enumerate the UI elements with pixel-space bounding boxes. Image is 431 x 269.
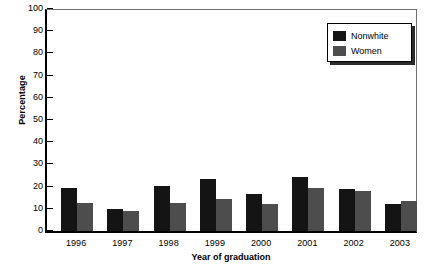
- y-axis-tick-label: 40: [33, 136, 43, 147]
- legend-label-women: Women: [351, 46, 382, 56]
- legend-swatch-women: [333, 46, 346, 56]
- bar-women: [262, 204, 278, 231]
- legend-label-nonwhite: Nonwhite: [351, 31, 389, 41]
- bar-women: [355, 191, 371, 231]
- y-axis-tick-label: 90: [33, 25, 43, 36]
- bar-nonwhite: [385, 204, 401, 231]
- y-axis-tick-label: 80: [33, 47, 43, 58]
- y-axis-tick-label: 30: [33, 158, 43, 169]
- bar-women: [216, 199, 232, 231]
- bar-women: [123, 211, 139, 231]
- y-axis-tick-label: 60: [33, 92, 43, 103]
- x-axis-title: Year of graduation: [45, 252, 417, 262]
- legend-swatch-nonwhite: [333, 31, 346, 41]
- bar-nonwhite: [246, 194, 262, 231]
- bar-nonwhite: [292, 177, 308, 231]
- legend-item: Nonwhite: [333, 28, 407, 43]
- y-axis-tick-label: 100: [28, 3, 43, 14]
- bar-chart-figure: Percentage 0102030405060708090100 199619…: [0, 0, 431, 269]
- y-axis-tick: 100: [47, 8, 53, 9]
- bar-group: [154, 10, 188, 231]
- bar-nonwhite: [107, 209, 123, 231]
- chart-legend: Nonwhite Women: [327, 23, 412, 62]
- bar-women: [401, 201, 417, 231]
- bar-women: [308, 188, 324, 231]
- bar-group: [292, 10, 326, 231]
- bar-nonwhite: [200, 179, 216, 231]
- bar-group: [200, 10, 234, 231]
- bar-women: [77, 203, 93, 231]
- x-axis-tick-label: 2003: [370, 238, 430, 248]
- y-axis-tick-label: 50: [33, 114, 43, 125]
- y-axis-tick-label: 0: [38, 225, 43, 236]
- y-axis-tick-label: 20: [33, 181, 43, 192]
- y-axis-title: Percentage: [17, 50, 27, 150]
- bar-group: [246, 10, 280, 231]
- bar-nonwhite: [154, 186, 170, 231]
- bar-group: [107, 10, 141, 231]
- y-axis-tick-label: 10: [33, 203, 43, 214]
- bar-women: [170, 203, 186, 231]
- legend-item: Women: [333, 43, 407, 58]
- bar-nonwhite: [339, 189, 355, 231]
- bar-nonwhite: [61, 188, 77, 231]
- y-axis-tick-label: 70: [33, 70, 43, 81]
- bar-group: [61, 10, 95, 231]
